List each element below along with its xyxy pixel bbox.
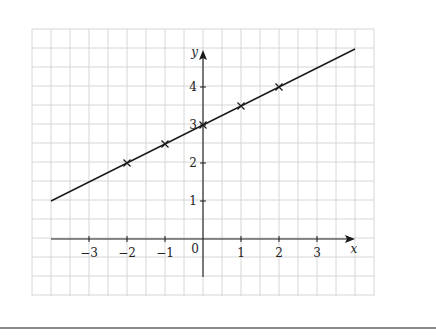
y-tick-label: 1	[189, 194, 197, 208]
x-tick-label: −2	[118, 246, 136, 260]
x-tick-label: 1	[237, 246, 245, 260]
y-tick-label: 2	[189, 156, 197, 170]
x-tick-label: −3	[80, 246, 98, 260]
x-tick-label: −1	[156, 246, 174, 260]
y-tick-label: 3	[189, 118, 197, 132]
chart: −3−2−112312340xy	[0, 0, 436, 336]
y-tick-label: 4	[189, 80, 197, 94]
x-tick-label: 2	[275, 246, 283, 260]
x-tick-label: 3	[313, 246, 321, 260]
origin-label: 0	[191, 242, 199, 256]
tick-labels: −3−2−112312340xy	[80, 45, 357, 260]
x-axis-label: x	[351, 242, 358, 256]
bottom-rule	[0, 327, 436, 329]
y-axis-label: y	[190, 45, 198, 59]
